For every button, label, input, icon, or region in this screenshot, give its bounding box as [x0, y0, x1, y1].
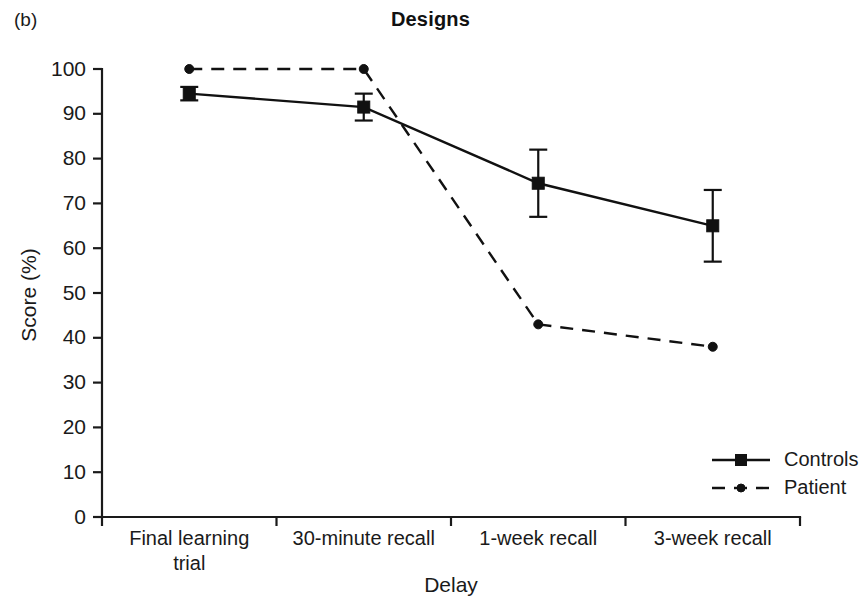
- x-tick-label: Final learningtrial: [129, 527, 249, 574]
- series-line: [189, 94, 713, 226]
- x-tick-label: 1-week recall: [479, 527, 597, 549]
- x-tick-label-group: Final learningtrial30-minute recall1-wee…: [129, 527, 771, 574]
- line-chart-plot: 0102030405060708090100 Final learningtri…: [0, 0, 861, 614]
- series-controls: [180, 87, 722, 262]
- legend-marker-circle: [737, 484, 745, 492]
- y-tick-label: 30: [63, 370, 86, 393]
- data-point-square: [183, 88, 195, 100]
- legend-label: Controls: [784, 448, 858, 470]
- data-point-square: [532, 177, 544, 189]
- data-point-circle: [185, 65, 194, 74]
- x-axis-title: Delay: [424, 573, 478, 596]
- y-tick-group: 0102030405060708090100: [51, 57, 102, 528]
- y-tick-label: 20: [63, 415, 86, 438]
- data-point-circle: [708, 342, 717, 351]
- y-tick-label: 70: [63, 191, 86, 214]
- x-tick-group: [102, 517, 800, 526]
- y-tick-label: 10: [63, 460, 86, 483]
- legend-label: Patient: [784, 476, 847, 498]
- data-point-circle: [359, 65, 368, 74]
- y-tick-label: 40: [63, 325, 86, 348]
- data-point-circle: [534, 320, 543, 329]
- x-tick-label: 3-week recall: [654, 527, 772, 549]
- y-tick-label: 90: [63, 101, 86, 124]
- series-group: [180, 65, 722, 352]
- chart-legend: ControlsPatient: [712, 448, 858, 498]
- y-tick-label: 60: [63, 236, 86, 259]
- y-tick-label: 100: [51, 57, 86, 80]
- y-tick-label: 80: [63, 146, 86, 169]
- data-point-square: [358, 101, 370, 113]
- y-axis-title: Score (%): [17, 248, 40, 341]
- legend-marker-square: [736, 455, 747, 466]
- figure-container: (b) Designs 0102030405060708090100 Final…: [0, 0, 861, 614]
- y-tick-label: 50: [63, 281, 86, 304]
- x-tick-label: 30-minute recall: [293, 527, 435, 549]
- y-tick-label: 0: [74, 505, 86, 528]
- data-point-square: [707, 220, 719, 232]
